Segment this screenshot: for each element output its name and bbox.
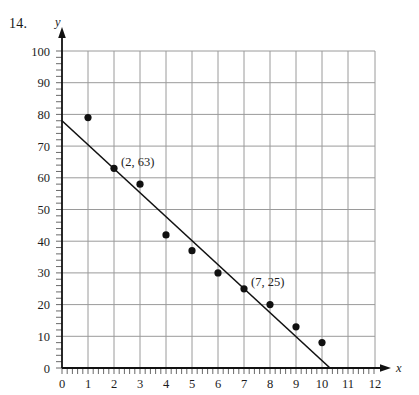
svg-text:2: 2 [111, 377, 117, 391]
x-axis-tick-labels: 0 1 2 3 4 5 6 7 8 9 10 11 12 [59, 377, 381, 391]
svg-text:10: 10 [38, 330, 51, 344]
svg-text:11: 11 [342, 377, 354, 391]
axis-lines [58, 27, 391, 372]
data-point [84, 114, 91, 121]
data-point [214, 269, 221, 276]
trend-line [62, 121, 330, 368]
svg-text:20: 20 [38, 298, 51, 312]
svg-text:1: 1 [85, 377, 91, 391]
data-point [110, 165, 117, 172]
svg-text:0: 0 [44, 362, 50, 376]
data-points [84, 114, 325, 346]
svg-text:6: 6 [215, 377, 221, 391]
figure-container: 14. [0, 0, 419, 395]
y-axis-label: y [53, 15, 61, 29]
svg-text:8: 8 [267, 377, 273, 391]
svg-text:30: 30 [38, 266, 51, 280]
data-point [266, 301, 273, 308]
data-point [292, 323, 299, 330]
data-point [162, 231, 169, 238]
data-point [136, 181, 143, 188]
svg-text:7: 7 [241, 377, 247, 391]
svg-text:60: 60 [38, 171, 51, 185]
y-axis-tick-labels: 0 10 20 30 40 50 60 70 80 90 100 [31, 45, 50, 376]
x-axis-arrow [380, 364, 391, 372]
data-point [318, 339, 325, 346]
svg-text:100: 100 [31, 45, 50, 59]
svg-text:10: 10 [316, 377, 329, 391]
svg-text:5: 5 [189, 377, 195, 391]
data-point [240, 285, 247, 292]
svg-text:9: 9 [293, 377, 299, 391]
svg-text:0: 0 [59, 377, 65, 391]
svg-text:40: 40 [38, 235, 51, 249]
svg-text:4: 4 [163, 377, 170, 391]
svg-text:50: 50 [38, 203, 51, 217]
svg-text:90: 90 [38, 76, 51, 90]
point-annotation-1: (2, 63) [121, 155, 154, 169]
svg-text:3: 3 [137, 377, 143, 391]
point-annotation-2: (7, 25) [251, 275, 284, 289]
svg-text:70: 70 [38, 140, 51, 154]
scatter-plot: y x 0 10 20 30 40 50 60 70 80 90 100 0 1… [0, 0, 419, 395]
svg-text:12: 12 [369, 377, 382, 391]
x-axis-label: x [395, 361, 402, 375]
data-point [188, 247, 195, 254]
svg-text:80: 80 [38, 108, 51, 122]
